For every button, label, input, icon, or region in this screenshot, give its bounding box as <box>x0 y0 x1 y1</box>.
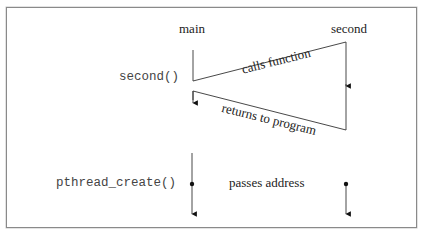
passes-address-label: passes address <box>229 175 304 191</box>
main-thread-dot <box>190 182 194 186</box>
second-call-label: second() <box>119 70 179 84</box>
main-label: main <box>179 21 205 37</box>
second-thread-dot <box>344 182 348 186</box>
pthread-create-label: pthread_create() <box>56 176 176 190</box>
second-label: second <box>331 21 367 37</box>
